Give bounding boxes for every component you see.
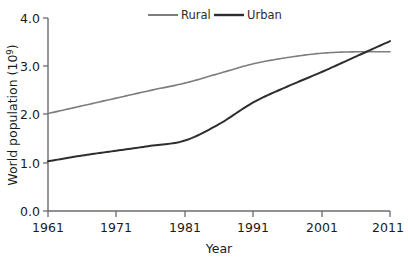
y-tick-label-0: 0.0 [20,204,40,219]
y-axis-title: World population (109) [5,44,20,185]
y-tick-label-1: 1.0 [20,156,40,171]
y-tick-label-2: 2.0 [20,107,40,122]
x-tick-label-2001: 2001 [306,220,338,235]
x-tick-label-1991: 1991 [237,220,269,235]
svg-text:World population (109): World population (109) [5,44,20,185]
y-tick-label-4: 4.0 [20,11,40,26]
x-tick-label-1971: 1971 [100,220,132,235]
chart-figure: 4.0 3.0 2.0 1.0 0.0 1961 1971 1981 1991 … [0,0,408,259]
x-axis-title: Year [205,241,233,256]
y-tick-label-3: 3.0 [20,59,40,74]
x-tick-label-2011: 2011 [372,220,404,235]
line-chart: 4.0 3.0 2.0 1.0 0.0 1961 1971 1981 1991 … [0,0,408,259]
x-tick-label-1961: 1961 [32,220,64,235]
y-axis-title-close: ) [5,44,20,49]
legend-label-urban: Urban [247,8,282,22]
x-tick-label-1981: 1981 [169,220,201,235]
legend-label-rural: Rural [181,8,211,22]
y-axis-title-base: World population (10 [5,55,20,186]
